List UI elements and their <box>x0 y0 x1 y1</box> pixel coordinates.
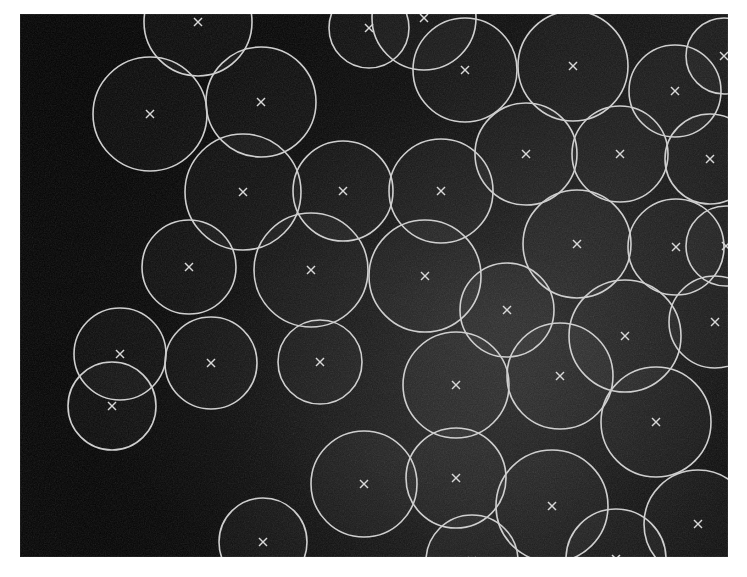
circle-center-cross-icon <box>185 263 193 271</box>
circle-center-cross-icon <box>671 87 679 95</box>
detected-circle <box>507 323 613 429</box>
circle-center-cross-icon <box>307 266 315 274</box>
circle-center-cross-icon <box>316 358 324 366</box>
circle-center-cross-icon <box>652 418 660 426</box>
film-grain-overlay <box>20 14 728 557</box>
detected-circle <box>311 431 417 537</box>
circle-center-cross-icon <box>452 474 460 482</box>
detected-circle <box>185 134 301 250</box>
circle-center-cross-icon <box>503 306 511 314</box>
circle-center-cross-icon <box>711 318 719 326</box>
circle-center-cross-icon <box>420 14 428 22</box>
circle-center-cross-icon <box>146 110 154 118</box>
circle-center-cross-icon <box>108 402 116 410</box>
detected-circle <box>572 106 668 202</box>
detected-circle <box>460 263 554 357</box>
circle-center-cross-icon <box>573 240 581 248</box>
detected-circle <box>403 332 509 438</box>
circle-center-cross-icon <box>339 187 347 195</box>
circle-center-cross-icon <box>257 98 265 106</box>
circle-center-cross-icon <box>365 24 373 32</box>
detected-circle <box>329 14 409 68</box>
circle-center-cross-icon <box>116 350 124 358</box>
circle-center-cross-icon <box>694 520 702 528</box>
circle-center-cross-icon <box>437 187 445 195</box>
circle-center-cross-icon <box>420 14 428 22</box>
detected-circle <box>406 428 506 528</box>
circle-center-cross-icon <box>503 306 511 314</box>
circle-center-cross-icon <box>452 474 460 482</box>
detected-circle <box>93 57 207 171</box>
detected-circle <box>206 47 316 157</box>
circle-center-cross-icon <box>421 272 429 280</box>
circle-center-cross-icon <box>694 520 702 528</box>
detected-circle <box>254 213 368 327</box>
circle-center-cross-icon <box>185 263 193 271</box>
circle-center-cross-icon <box>461 66 469 74</box>
detected-circle <box>426 515 518 557</box>
detected-circle <box>644 470 728 557</box>
detected-circle <box>475 103 577 205</box>
circle-center-cross-icon <box>339 187 347 195</box>
circle-center-cross-icon <box>259 538 267 546</box>
circle-center-cross-icon <box>711 318 719 326</box>
circle-center-cross-icon <box>569 62 577 70</box>
detected-circle <box>628 199 724 295</box>
circle-center-cross-icon <box>146 110 154 118</box>
circle-center-cross-icon <box>207 359 215 367</box>
circle-center-cross-icon <box>452 381 460 389</box>
circle-center-cross-icon <box>257 98 265 106</box>
circle-center-cross-icon <box>720 52 728 60</box>
circle-center-cross-icon <box>548 502 556 510</box>
circle-center-cross-icon <box>621 332 629 340</box>
detected-circle <box>518 14 628 121</box>
circle-center-cross-icon <box>360 480 368 488</box>
detected-circle <box>144 14 252 76</box>
plate-edge <box>20 14 728 557</box>
detected-circle <box>601 367 711 477</box>
circle-center-cross-icon <box>452 381 460 389</box>
detected-circle <box>389 139 493 243</box>
circle-center-cross-icon <box>194 18 202 26</box>
detected-circle <box>686 206 728 286</box>
circle-center-cross-icon <box>652 418 660 426</box>
figure-root <box>0 0 747 577</box>
circle-center-cross-icon <box>207 359 215 367</box>
circle-center-cross-icon <box>365 24 373 32</box>
detected-circle <box>74 308 166 400</box>
circle-center-cross-icon <box>259 538 267 546</box>
circle-center-cross-icon <box>194 18 202 26</box>
detected-circle <box>372 14 476 70</box>
circle-center-cross-icon <box>108 402 116 410</box>
circle-center-cross-icon <box>722 242 728 250</box>
circle-center-cross-icon <box>722 242 728 250</box>
circle-detection-overlay <box>20 14 728 557</box>
detected-circle <box>413 18 517 122</box>
circle-center-cross-icon <box>360 480 368 488</box>
circle-center-cross-icon <box>239 188 247 196</box>
circle-center-cross-icon <box>671 87 679 95</box>
detected-circle <box>293 141 393 241</box>
circle-center-cross-icon <box>720 52 728 60</box>
detected-circle <box>629 45 721 137</box>
circle-center-cross-icon <box>556 372 564 380</box>
circle-center-cross-icon <box>461 66 469 74</box>
circle-center-cross-icon <box>612 555 620 557</box>
circle-center-cross-icon <box>307 266 315 274</box>
detected-circle <box>686 18 728 94</box>
circle-center-cross-icon <box>672 243 680 251</box>
detected-circle <box>278 320 362 404</box>
circle-center-cross-icon <box>421 272 429 280</box>
circle-center-cross-icon <box>548 502 556 510</box>
circle-center-cross-icon <box>437 187 445 195</box>
circle-center-cross-icon <box>573 240 581 248</box>
circle-center-cross-icon <box>621 332 629 340</box>
circle-center-cross-icon <box>116 350 124 358</box>
detected-circle <box>68 362 156 450</box>
circle-center-cross-icon <box>239 188 247 196</box>
circle-centers-group <box>108 14 728 557</box>
detected-circle <box>523 190 631 298</box>
detected-circle <box>165 317 257 409</box>
detected-circle <box>142 220 236 314</box>
detected-circle <box>566 509 666 557</box>
